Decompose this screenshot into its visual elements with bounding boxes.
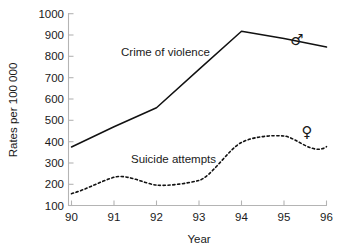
line-chart-canvas: 1000 900 800 700 600 500 400 300 200 100… bbox=[0, 0, 338, 252]
y-tick-label: 300 bbox=[45, 157, 64, 169]
y-axis-tick-labels: 1000 900 800 700 600 500 400 300 200 100 bbox=[38, 8, 64, 212]
female-venus-symbol-icon: ♀ bbox=[302, 123, 313, 141]
male-mars-symbol-icon: ♂ bbox=[290, 31, 303, 49]
y-tick-label: 900 bbox=[45, 29, 64, 41]
y-tick-label: 800 bbox=[45, 50, 64, 62]
x-tick-label: 92 bbox=[150, 211, 163, 223]
chart-figure: 1000 900 800 700 600 500 400 300 200 100… bbox=[0, 0, 338, 252]
series-annotation-suicide-attempts: Suicide attempts bbox=[131, 153, 216, 165]
series-annotation-crime-of-violence: Crime of violence bbox=[121, 46, 210, 58]
y-tick-label: 700 bbox=[45, 72, 64, 84]
y-axis-ticks bbox=[69, 14, 74, 206]
y-tick-label: 500 bbox=[45, 114, 64, 126]
x-axis-tick-labels: 90 91 92 93 94 95 96 bbox=[65, 211, 333, 223]
x-tick-label: 93 bbox=[193, 211, 206, 223]
y-tick-label: 600 bbox=[45, 93, 64, 105]
x-tick-label: 96 bbox=[320, 211, 333, 223]
y-tick-label: 100 bbox=[45, 200, 64, 212]
x-axis-ticks bbox=[72, 201, 327, 206]
x-tick-label: 91 bbox=[108, 211, 121, 223]
x-tick-label: 90 bbox=[65, 211, 78, 223]
y-tick-label: 1000 bbox=[38, 8, 64, 20]
x-axis-title: Year bbox=[187, 233, 210, 245]
y-tick-label: 200 bbox=[45, 178, 64, 190]
y-axis-title: Rates per 100 000 bbox=[7, 63, 19, 158]
x-tick-label: 95 bbox=[278, 211, 291, 223]
y-tick-label: 400 bbox=[45, 136, 64, 148]
x-tick-label: 94 bbox=[235, 211, 248, 223]
